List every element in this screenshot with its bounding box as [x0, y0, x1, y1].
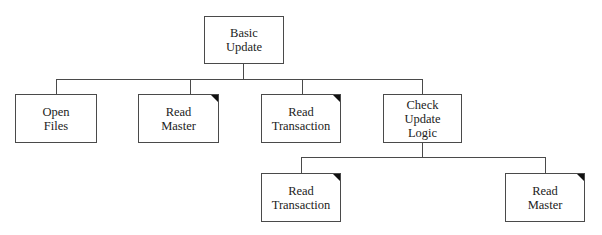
- module-label-line: Transaction: [272, 198, 331, 212]
- predefined-module-marker-icon: [577, 174, 584, 181]
- predefined-module-marker-icon: [333, 174, 340, 181]
- module-label-line: Master: [528, 198, 563, 212]
- connector-root-stem: [243, 64, 244, 79]
- module-label-line: Basic: [230, 26, 258, 40]
- module-label-line: Files: [44, 119, 68, 133]
- connector-read-transaction-2: [301, 157, 302, 173]
- module-label-line: Logic: [408, 126, 437, 140]
- connector-read-master-2: [545, 157, 546, 173]
- module-read-transaction-2: Read Transaction: [261, 173, 341, 222]
- module-label-line: Open: [42, 105, 69, 119]
- module-label-line: Read: [288, 184, 314, 198]
- module-read-master: Read Master: [138, 94, 219, 143]
- module-open-files: Open Files: [15, 94, 97, 143]
- connector-read-master: [190, 79, 191, 94]
- module-basic-update: Basic Update: [204, 16, 284, 64]
- predefined-module-marker-icon: [211, 95, 218, 102]
- predefined-module-marker-icon: [333, 95, 340, 102]
- connector-check-stem: [422, 143, 423, 157]
- module-label-line: Update: [226, 40, 262, 54]
- module-label-line: Update: [404, 112, 440, 126]
- connector-open-files: [56, 79, 57, 94]
- connector-level2-bus: [301, 157, 546, 158]
- module-label-line: Read: [532, 184, 558, 198]
- module-label-line: Check: [407, 98, 439, 112]
- connector-level1-bus: [56, 79, 423, 80]
- connector-check-update-logic: [422, 79, 423, 94]
- module-label-line: Master: [161, 119, 196, 133]
- module-label-line: Read: [166, 105, 192, 119]
- module-read-master-2: Read Master: [505, 173, 585, 222]
- module-check-update-logic: Check Update Logic: [383, 94, 462, 143]
- module-read-transaction: Read Transaction: [261, 94, 341, 143]
- module-label-line: Read: [288, 105, 314, 119]
- module-label-line: Transaction: [272, 119, 331, 133]
- connector-read-transaction: [302, 79, 303, 94]
